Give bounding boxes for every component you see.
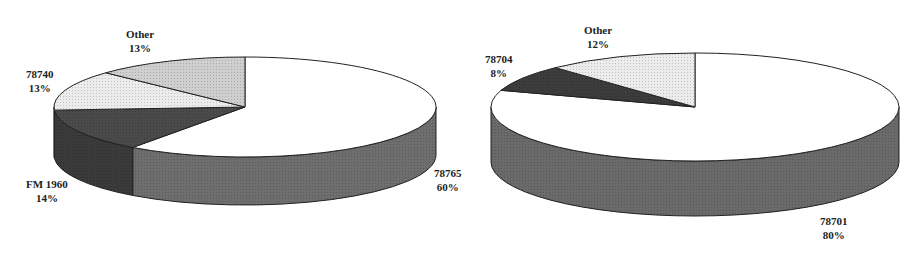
- label-right-78704: 78704 8%: [485, 52, 513, 80]
- label-left-78765: 78765 60%: [434, 166, 462, 194]
- label-pct: 13%: [26, 81, 54, 95]
- label-name: Other: [126, 27, 154, 41]
- label-pct: 14%: [26, 191, 68, 205]
- label-name: 78704: [485, 52, 513, 66]
- label-right-78701: 78701 80%: [820, 214, 848, 242]
- pie-chart-right: [491, 53, 899, 216]
- label-name: 78765: [434, 166, 462, 180]
- label-pct: 12%: [584, 37, 612, 51]
- label-pct: 13%: [126, 41, 154, 55]
- label-pct: 80%: [820, 228, 848, 242]
- label-name: 78701: [820, 214, 848, 228]
- label-left-78740: 78740 13%: [26, 67, 54, 95]
- label-left-other: Other 13%: [126, 27, 154, 55]
- label-name: FM 1960: [26, 177, 68, 191]
- label-name: Other: [584, 23, 612, 37]
- pie-chart-left: [54, 57, 436, 205]
- label-right-other: Other 12%: [584, 23, 612, 51]
- label-name: 78740: [26, 67, 54, 81]
- label-pct: 60%: [434, 180, 462, 194]
- label-pct: 8%: [485, 66, 513, 80]
- label-left-fm1960: FM 1960 14%: [26, 177, 68, 205]
